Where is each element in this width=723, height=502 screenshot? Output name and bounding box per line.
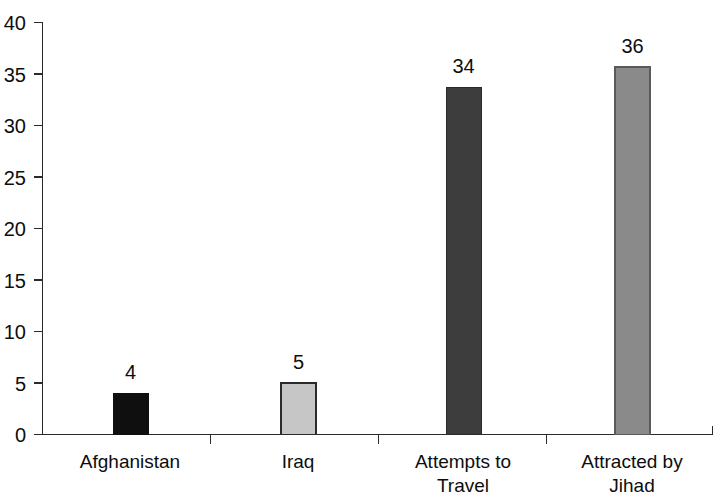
category-label-iraq: Iraq bbox=[282, 451, 315, 472]
y-tick-label-5: 5 bbox=[15, 373, 26, 395]
bar-series bbox=[113, 67, 650, 435]
category-label-attracted-by-jihad-line1: Attracted by bbox=[581, 451, 683, 472]
y-axis-ticks bbox=[34, 23, 43, 435]
plot-area: 40 35 30 25 20 15 10 5 0 bbox=[0, 0, 723, 502]
category-label-afghanistan: Afghanistan bbox=[80, 451, 180, 472]
bar-value-labels: 4 5 34 36 bbox=[125, 35, 644, 383]
y-tick-label-25: 25 bbox=[4, 167, 26, 189]
y-tick-label-15: 15 bbox=[4, 270, 26, 292]
bar-attracted-by-jihad bbox=[615, 67, 650, 435]
value-label-iraq: 5 bbox=[293, 351, 304, 373]
y-tick-label-35: 35 bbox=[4, 64, 26, 86]
y-tick-label-10: 10 bbox=[4, 321, 26, 343]
bar-chart: 40 35 30 25 20 15 10 5 0 bbox=[0, 0, 723, 502]
y-tick-label-30: 30 bbox=[4, 115, 26, 137]
y-tick-label-40: 40 bbox=[4, 12, 26, 34]
bar-iraq bbox=[281, 383, 316, 435]
x-axis-category-labels: Afghanistan Iraq Attempts to Travel Attr… bbox=[80, 451, 683, 496]
y-tick-label-0: 0 bbox=[15, 424, 26, 446]
value-label-afghanistan: 4 bbox=[125, 361, 136, 383]
y-tick-label-20: 20 bbox=[4, 218, 26, 240]
bar-attempts-to-travel bbox=[446, 87, 481, 435]
category-label-attempts-to-travel-line1: Attempts to bbox=[415, 451, 511, 472]
chart-canvas: 40 35 30 25 20 15 10 5 0 bbox=[0, 0, 723, 502]
value-label-attempts-to-travel: 34 bbox=[452, 55, 474, 77]
x-axis-category-ticks bbox=[211, 435, 547, 445]
category-label-attempts-to-travel-line2: Travel bbox=[437, 475, 489, 496]
y-axis-tick-labels: 40 35 30 25 20 15 10 5 0 bbox=[4, 12, 26, 446]
category-label-attracted-by-jihad-line2: Jihad bbox=[609, 475, 654, 496]
value-label-attracted-by-jihad: 36 bbox=[621, 35, 643, 57]
bar-afghanistan bbox=[113, 393, 148, 435]
